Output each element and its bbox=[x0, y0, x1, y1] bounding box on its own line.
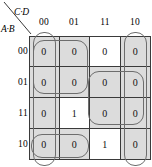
row-header-0: 00 bbox=[2, 36, 28, 67]
cell-r0-c3[interactable]: 0 bbox=[121, 36, 152, 67]
column-axis-label: C·D bbox=[14, 7, 29, 17]
cell-r3-c2[interactable]: 1 bbox=[90, 129, 121, 160]
cell-r3-c1[interactable]: 0 bbox=[60, 129, 91, 160]
cell-value: 0 bbox=[72, 46, 77, 57]
cell-r2-c3[interactable]: 0 bbox=[121, 98, 152, 129]
cell-r2-c1[interactable]: 1 bbox=[60, 98, 91, 129]
column-header-2: 11 bbox=[90, 17, 120, 27]
row-header-1: 01 bbox=[2, 67, 28, 98]
cell-value: 0 bbox=[133, 46, 138, 57]
kmap-grid: 0 0 0 0 0 0 0 0 0 1 0 0 0 0 1 0 bbox=[29, 36, 151, 160]
cell-value: 0 bbox=[102, 108, 107, 119]
row-header-column: 00 01 11 10 bbox=[2, 36, 28, 160]
cell-r2-c0[interactable]: 0 bbox=[29, 98, 60, 129]
cell-value: 0 bbox=[72, 77, 77, 88]
karnaugh-map: C·D A·B 00 01 11 10 00 01 11 10 0 0 0 0 … bbox=[0, 0, 151, 167]
cell-value: 1 bbox=[72, 108, 77, 119]
cell-r1-c2[interactable]: 0 bbox=[90, 67, 121, 98]
row-header-2: 11 bbox=[2, 98, 28, 129]
cell-r1-c0[interactable]: 0 bbox=[29, 67, 60, 98]
cell-value: 0 bbox=[41, 77, 46, 88]
cell-r0-c0[interactable]: 0 bbox=[29, 36, 60, 67]
column-header-0: 00 bbox=[29, 17, 59, 27]
cell-value: 0 bbox=[133, 108, 138, 119]
column-header-3: 10 bbox=[120, 17, 150, 27]
cell-value: 0 bbox=[41, 46, 46, 57]
cell-value: 0 bbox=[133, 139, 138, 150]
row-header-3: 10 bbox=[2, 129, 28, 160]
cell-value: 0 bbox=[41, 108, 46, 119]
cell-r0-c2[interactable]: 0 bbox=[90, 36, 121, 67]
cell-r3-c3[interactable]: 0 bbox=[121, 129, 152, 160]
cell-r1-c3[interactable]: 0 bbox=[121, 67, 152, 98]
cell-value: 0 bbox=[102, 46, 107, 57]
cell-value: 1 bbox=[102, 139, 107, 150]
row-axis-label: A·B bbox=[1, 24, 14, 34]
cell-r0-c1[interactable]: 0 bbox=[60, 36, 91, 67]
cell-r2-c2[interactable]: 0 bbox=[90, 98, 121, 129]
cell-value: 0 bbox=[72, 139, 77, 150]
cell-value: 0 bbox=[133, 77, 138, 88]
column-header-1: 01 bbox=[59, 17, 89, 27]
cell-value: 0 bbox=[102, 77, 107, 88]
column-header-row: 00 01 11 10 bbox=[29, 17, 151, 33]
cell-r3-c0[interactable]: 0 bbox=[29, 129, 60, 160]
cell-value: 0 bbox=[41, 139, 46, 150]
cell-r1-c1[interactable]: 0 bbox=[60, 67, 91, 98]
